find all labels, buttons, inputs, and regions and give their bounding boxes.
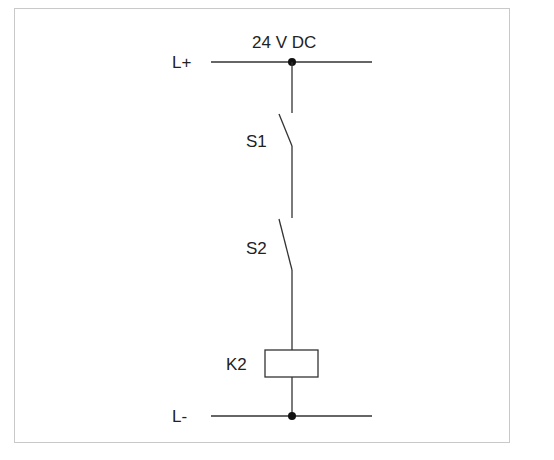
switch-s2-icon — [279, 219, 292, 270]
junction-dot-bottom — [288, 412, 296, 420]
relay-coil-k2-icon — [265, 350, 318, 377]
relay-coil-k2-label: K2 — [226, 356, 247, 373]
circuit-schematic — [0, 0, 554, 460]
positive-rail-label: L+ — [172, 54, 191, 71]
supply-label: 24 V DC — [252, 34, 316, 51]
switch-s1-icon — [279, 114, 292, 146]
switch-s1-label: S1 — [246, 133, 267, 150]
negative-rail-label: L- — [172, 408, 187, 425]
switch-s2-label: S2 — [246, 240, 267, 257]
